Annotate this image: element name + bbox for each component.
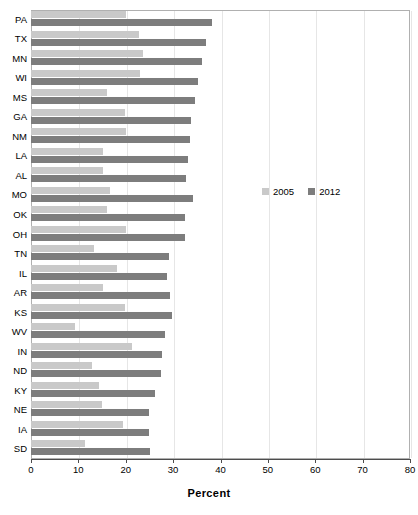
bar-SD-2012 [31, 448, 150, 455]
x-tick-label-70: 70 [343, 464, 383, 475]
bar-WV-2005 [31, 323, 75, 330]
category-axis-labels: PATXMNWIMSGANMLAALMOOKOHTNILARKSWVINNDKY… [0, 10, 27, 459]
bar-TN-2012 [31, 253, 169, 260]
x-tick-60 [315, 459, 316, 463]
bar-KS-2012 [31, 312, 172, 319]
bar-TN-2005 [31, 245, 94, 252]
category-label-AL: AL [0, 171, 27, 181]
x-tick-label-30: 30 [153, 464, 193, 475]
bar-GA-2012 [31, 117, 191, 124]
bar-rows [31, 10, 410, 459]
bar-IN-2012 [31, 351, 162, 358]
x-tick-label-40: 40 [201, 464, 241, 475]
bar-WI-2012 [31, 78, 198, 85]
x-axis: 01020304050607080 [31, 459, 410, 481]
bar-row [31, 244, 410, 264]
category-label-NM: NM [0, 132, 27, 142]
bar-row [31, 88, 410, 108]
x-tick-20 [126, 459, 127, 463]
legend-label-2012: 2012 [319, 186, 340, 197]
bar-LA-2005 [31, 148, 103, 155]
category-label-MS: MS [0, 93, 27, 103]
category-label-IA: IA [0, 425, 27, 435]
bar-MS-2005 [31, 89, 107, 96]
legend-swatch-2012 [308, 188, 315, 195]
bar-OK-2012 [31, 214, 185, 221]
bar-MS-2012 [31, 97, 195, 104]
bar-row [31, 283, 410, 303]
category-label-OH: OH [0, 230, 27, 240]
bar-KY-2005 [31, 382, 99, 389]
x-tick-80 [410, 459, 411, 463]
bar-row [31, 147, 410, 167]
bar-IL-2005 [31, 265, 117, 272]
bar-IA-2005 [31, 421, 123, 428]
bar-MN-2012 [31, 58, 202, 65]
category-label-MO: MO [0, 190, 27, 200]
bar-row [31, 69, 410, 89]
bar-row [31, 49, 410, 69]
bar-IA-2012 [31, 429, 149, 436]
legend-swatch-2005 [262, 188, 269, 195]
bar-AR-2005 [31, 284, 103, 291]
bar-row [31, 322, 410, 342]
category-label-SD: SD [0, 444, 27, 454]
bar-KY-2012 [31, 390, 155, 397]
bar-row [31, 342, 410, 362]
bar-IL-2012 [31, 273, 167, 280]
legend: 2005 2012 [262, 186, 340, 197]
bar-SD-2005 [31, 440, 85, 447]
bar-chart: PATXMNWIMSGANMLAALMOOKOHTNILARKSWVINNDKY… [0, 0, 418, 515]
bar-row [31, 400, 410, 420]
bar-MN-2005 [31, 50, 143, 57]
bar-OH-2005 [31, 226, 126, 233]
legend-item-2005: 2005 [262, 186, 294, 197]
bar-NE-2005 [31, 401, 102, 408]
bar-OH-2012 [31, 234, 185, 241]
bar-row [31, 264, 410, 284]
category-label-IN: IN [0, 347, 27, 357]
category-label-TX: TX [0, 34, 27, 44]
bar-row [31, 439, 410, 459]
x-tick-label-0: 0 [11, 464, 51, 475]
category-label-WV: WV [0, 327, 27, 337]
bar-MO-2012 [31, 195, 193, 202]
x-tick-label-80: 80 [390, 464, 418, 475]
bar-row [31, 225, 410, 245]
bar-row [31, 10, 410, 30]
legend-item-2012: 2012 [308, 186, 340, 197]
category-label-KS: KS [0, 308, 27, 318]
category-label-PA: PA [0, 15, 27, 25]
bar-GA-2005 [31, 109, 125, 116]
bar-row [31, 205, 410, 225]
bar-row [31, 166, 410, 186]
legend-label-2005: 2005 [273, 186, 294, 197]
bar-WV-2012 [31, 331, 165, 338]
category-label-WI: WI [0, 73, 27, 83]
x-tick-0 [31, 459, 32, 463]
bar-OK-2005 [31, 206, 107, 213]
bar-KS-2005 [31, 304, 125, 311]
bar-AR-2012 [31, 292, 170, 299]
bar-NM-2005 [31, 128, 126, 135]
x-tick-label-60: 60 [295, 464, 335, 475]
bar-PA-2005 [31, 11, 126, 18]
bar-row [31, 108, 410, 128]
category-label-ND: ND [0, 366, 27, 376]
category-label-KY: KY [0, 386, 27, 396]
bar-row [31, 381, 410, 401]
gridline-80 [411, 11, 412, 458]
x-tick-50 [268, 459, 269, 463]
x-tick-label-50: 50 [248, 464, 288, 475]
bar-row [31, 303, 410, 323]
bar-MO-2005 [31, 187, 110, 194]
bar-row [31, 420, 410, 440]
bar-row [31, 127, 410, 147]
category-label-MN: MN [0, 54, 27, 64]
bar-NE-2012 [31, 409, 149, 416]
bar-row [31, 361, 410, 381]
bar-AL-2005 [31, 167, 103, 174]
bar-LA-2012 [31, 156, 188, 163]
x-tick-70 [363, 459, 364, 463]
category-label-IL: IL [0, 269, 27, 279]
